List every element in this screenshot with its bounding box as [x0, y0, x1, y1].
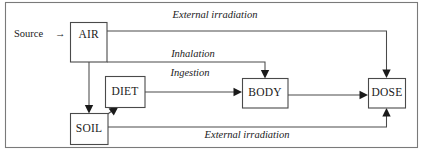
node-air-label: AIR: [78, 28, 99, 40]
figure-frame: [6, 3, 418, 148]
arrowhead-air-body-inhalation: [261, 70, 269, 79]
node-body-label: BODY: [248, 86, 282, 98]
node-dose-label: DOSE: [372, 86, 403, 98]
node-soil-label: SOIL: [76, 122, 102, 134]
figure-container: Source → AIR DIET SOIL BODY DOSE Externa…: [0, 0, 429, 153]
edge-air-dose-external: [107, 31, 387, 70]
edge-label-ingestion: Ingestion: [169, 67, 209, 78]
node-diet-label: DIET: [112, 85, 139, 97]
edge-soil-dose-external: [108, 116, 387, 127]
pathway-diagram: Source → AIR DIET SOIL BODY DOSE Externa…: [0, 0, 429, 153]
source-label: Source: [14, 28, 43, 39]
edge-label-external-irradiation-top: External irradiation: [172, 9, 258, 20]
edge-label-inhalation: Inhalation: [170, 48, 215, 59]
edge-label-external-irradiation-bottom: External irradiation: [204, 129, 290, 140]
arrowhead-soil-dose-external: [382, 108, 390, 117]
arrowhead-body-dose: [360, 91, 369, 99]
arrowhead-diet-body-ingestion: [234, 88, 243, 96]
source-arrow-icon: →: [55, 28, 66, 39]
arrowhead-air-soil: [85, 105, 93, 114]
arrowhead-air-dose-external: [382, 70, 390, 79]
